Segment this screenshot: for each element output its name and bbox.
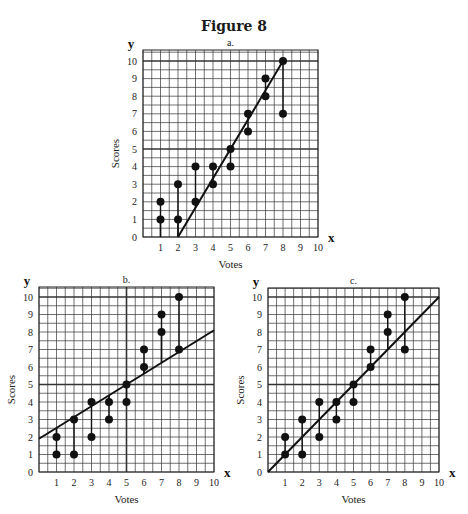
- data-point: [279, 57, 287, 65]
- data-point: [53, 433, 61, 441]
- x-axis-label: Votes: [341, 493, 365, 505]
- data-point: [315, 433, 323, 441]
- y-tick-label: 8: [257, 327, 262, 338]
- data-point: [88, 433, 96, 441]
- data-point: [350, 381, 358, 389]
- y-tick-label: 7: [132, 108, 137, 119]
- x-tick-label: 8: [177, 477, 182, 488]
- y-tick-label: 0: [28, 467, 33, 478]
- x-tick-label: 10: [434, 477, 444, 488]
- data-point: [209, 163, 217, 171]
- data-point: [244, 127, 252, 135]
- y-tick-label: 8: [28, 327, 33, 338]
- data-point: [140, 363, 148, 371]
- panel-label: a.: [227, 37, 234, 48]
- data-point: [401, 346, 409, 354]
- data-point: [174, 180, 182, 188]
- x-tick-label: 7: [159, 477, 164, 488]
- data-point: [367, 363, 375, 371]
- y-tick-label: 5: [257, 379, 262, 390]
- data-point: [70, 451, 78, 459]
- x-tick-label: 1: [158, 242, 163, 253]
- data-point: [53, 451, 61, 459]
- grid: [39, 287, 214, 472]
- x-tick-label: 2: [176, 242, 181, 253]
- x-tick-label: 5: [351, 477, 356, 488]
- x-tick-label: 9: [194, 477, 199, 488]
- y-tick-label: 1: [132, 214, 137, 225]
- figure-canvas: 01234567891012345678910xya.VotesScores01…: [0, 0, 468, 514]
- data-point: [279, 110, 287, 118]
- data-point: [192, 163, 200, 171]
- data-point: [105, 398, 113, 406]
- data-point: [401, 293, 409, 301]
- x-tick-label: 3: [193, 242, 198, 253]
- x-tick-label: 10: [209, 477, 219, 488]
- x-tick-label: 4: [107, 477, 112, 488]
- y-tick-label: 2: [257, 432, 262, 443]
- y-tick-label: 6: [28, 362, 33, 373]
- panel-label: c.: [350, 275, 357, 286]
- y-tick-label: 5: [28, 379, 33, 390]
- y-tick-label: 6: [132, 126, 137, 137]
- y-tick-label: 4: [28, 397, 33, 408]
- y-tick-label: 7: [28, 344, 33, 355]
- chart-a: 01234567891012345678910xya.VotesScores: [109, 36, 335, 270]
- y-tick-label: 10: [127, 56, 137, 67]
- y-tick-label: 3: [28, 414, 33, 425]
- y-tick-label: 1: [28, 449, 33, 460]
- data-point: [384, 328, 392, 336]
- data-point: [298, 451, 306, 459]
- y-tick-label: 1: [257, 449, 262, 460]
- data-point: [332, 416, 340, 424]
- data-point: [174, 215, 182, 223]
- y-tick-label: 0: [257, 467, 262, 478]
- x-axis-label: Votes: [114, 493, 138, 505]
- data-point: [209, 180, 217, 188]
- x-tick-label: 8: [402, 477, 407, 488]
- data-point: [158, 311, 166, 319]
- data-point: [123, 381, 131, 389]
- x-tick-label: 1: [54, 477, 59, 488]
- data-point: [140, 346, 148, 354]
- y-tick-label: 4: [132, 161, 137, 172]
- y-tick-label: 9: [257, 309, 262, 320]
- data-point: [157, 198, 165, 206]
- data-point: [281, 433, 289, 441]
- x-tick-label: 10: [313, 242, 323, 253]
- x-tick-label: 6: [246, 242, 251, 253]
- y-tick-label: 2: [28, 432, 33, 443]
- x-tick-label: 5: [228, 242, 233, 253]
- y-tick-label: 7: [257, 344, 262, 355]
- x-tick-label: 2: [300, 477, 305, 488]
- y-axis-label: Scores: [234, 375, 246, 404]
- y-tick-label: 6: [257, 362, 262, 373]
- y-tick-label: 4: [257, 397, 262, 408]
- x-tick-label: 7: [263, 242, 268, 253]
- y-tick-label: 8: [132, 91, 137, 102]
- x-tick-label: 5: [124, 477, 129, 488]
- x-tick-label: 1: [283, 477, 288, 488]
- data-point: [367, 346, 375, 354]
- data-point: [244, 110, 252, 118]
- data-point: [281, 451, 289, 459]
- data-point: [192, 198, 200, 206]
- x-tick-label: 9: [419, 477, 424, 488]
- grid: [143, 50, 318, 237]
- data-point: [350, 398, 358, 406]
- y-tick-label: 9: [28, 309, 33, 320]
- data-point: [227, 163, 235, 171]
- x-tick-label: 6: [142, 477, 147, 488]
- data-point: [175, 293, 183, 301]
- x-tick-label: 7: [385, 477, 390, 488]
- data-point: [70, 416, 78, 424]
- x-axis-variable: x: [449, 465, 456, 480]
- y-tick-label: 10: [23, 292, 33, 303]
- y-axis-label: Scores: [109, 139, 121, 168]
- y-tick-label: 3: [257, 414, 262, 425]
- y-axis-variable: y: [24, 273, 31, 288]
- data-point: [227, 145, 235, 153]
- data-point: [262, 92, 270, 100]
- data-point: [88, 398, 96, 406]
- y-tick-label: 3: [132, 179, 137, 190]
